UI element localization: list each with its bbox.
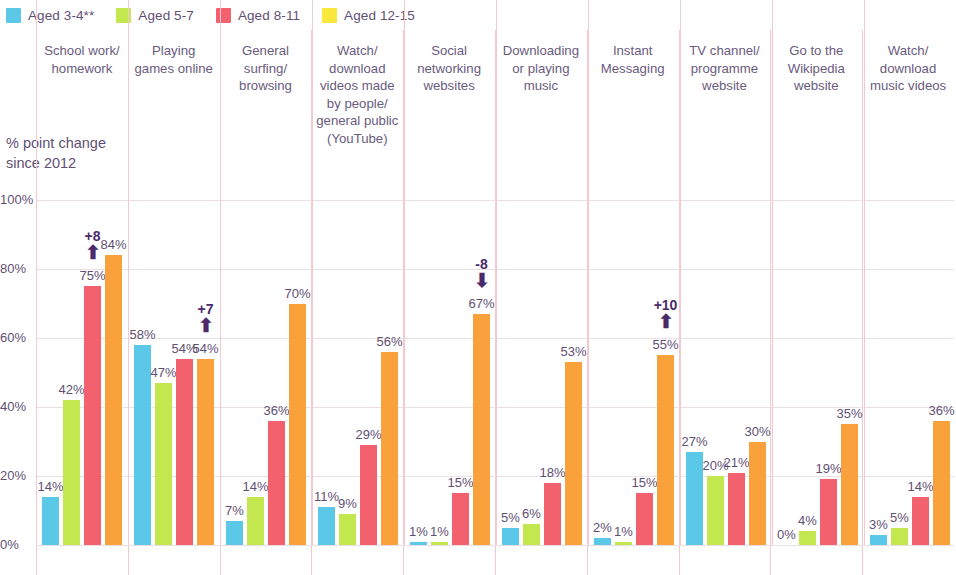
bar-column[interactable]: 29% (360, 200, 377, 545)
bar[interactable] (523, 524, 540, 545)
bar-column[interactable]: 5% (891, 200, 908, 545)
arrow-down-icon: ⬇ (474, 272, 490, 290)
column-separator (680, 0, 681, 545)
bar-column[interactable]: 6% (523, 200, 540, 545)
bar-column[interactable]: 35% (841, 200, 858, 545)
bar[interactable] (452, 493, 469, 545)
bar[interactable] (749, 442, 766, 546)
bar[interactable] (502, 528, 519, 545)
bar[interactable] (615, 542, 632, 545)
bar[interactable] (473, 314, 490, 545)
bar[interactable] (42, 497, 59, 545)
bar-column[interactable]: 2% (594, 200, 611, 545)
bar-column[interactable]: 20% (707, 200, 724, 545)
bar-column[interactable]: 0% (778, 200, 795, 545)
bar[interactable] (176, 359, 193, 545)
bar[interactable] (134, 345, 151, 545)
bar[interactable] (247, 497, 264, 545)
bar[interactable] (707, 476, 724, 545)
bar[interactable] (933, 421, 950, 545)
bar-column[interactable]: 4% (799, 200, 816, 545)
bar-column[interactable]: 67%-8⬇ (473, 200, 490, 545)
bar[interactable] (544, 483, 561, 545)
bar-value-label: 75% (79, 268, 105, 283)
bar-value-label: 47% (150, 365, 176, 380)
bar[interactable] (226, 521, 243, 545)
bar[interactable] (636, 493, 653, 545)
bar-column[interactable]: 84% (105, 200, 122, 545)
bar-value-label: 7% (225, 503, 244, 518)
bar-column[interactable]: 75%+8⬆ (84, 200, 101, 545)
bar-column[interactable]: 9% (339, 200, 356, 545)
bar-column[interactable]: 54% (176, 200, 193, 545)
bar[interactable] (197, 359, 214, 545)
bar-value-label: 35% (836, 406, 862, 421)
bar[interactable] (728, 473, 745, 545)
legend-item[interactable]: Aged 12-15 (322, 8, 415, 23)
bar[interactable] (360, 445, 377, 545)
bar[interactable] (912, 497, 929, 545)
bar[interactable] (318, 507, 335, 545)
bar[interactable] (841, 424, 858, 545)
bar-column[interactable]: 1% (410, 200, 427, 545)
bar-column[interactable]: 47% (155, 200, 172, 545)
bar-column[interactable]: 15% (452, 200, 469, 545)
bar-column[interactable]: 19% (820, 200, 837, 545)
bar-value-label: 5% (501, 510, 520, 525)
bar-column[interactable]: 5% (502, 200, 519, 545)
bar[interactable] (594, 538, 611, 545)
category-header-label: Social networking websites (407, 42, 491, 95)
bar[interactable] (63, 400, 80, 545)
bar-column[interactable]: 55%+10⬆ (657, 200, 674, 545)
bar[interactable] (410, 542, 427, 545)
bar-column[interactable]: 14% (42, 200, 59, 545)
bar-column[interactable]: 11% (318, 200, 335, 545)
bar-column[interactable]: 14% (247, 200, 264, 545)
legend-item[interactable]: Aged 8-11 (216, 8, 300, 23)
bar-value-label: 36% (263, 403, 289, 418)
bar[interactable] (686, 452, 703, 545)
bar-value-label: 36% (928, 403, 954, 418)
bar-column[interactable]: 30% (749, 200, 766, 545)
bar-column[interactable]: 14% (912, 200, 929, 545)
bar[interactable] (657, 355, 674, 545)
bar[interactable] (431, 542, 448, 545)
arrow-up-icon: ⬆ (85, 244, 101, 262)
bar-column[interactable]: 7% (226, 200, 243, 545)
bar-value-label: 58% (129, 327, 155, 342)
bar[interactable] (820, 479, 837, 545)
bar-column[interactable]: 58% (134, 200, 151, 545)
legend-item[interactable]: Aged 3-4** (6, 8, 94, 23)
bar-column[interactable]: 36% (268, 200, 285, 545)
bar[interactable] (891, 528, 908, 545)
bar-column[interactable]: 18% (544, 200, 561, 545)
bar-column[interactable]: 42% (63, 200, 80, 545)
bar[interactable] (565, 362, 582, 545)
bar-value-label: 14% (242, 479, 268, 494)
bar-column[interactable]: 3% (870, 200, 887, 545)
bar-value-label: 0% (777, 527, 796, 542)
bar[interactable] (268, 421, 285, 545)
bar-value-label: 15% (631, 475, 657, 490)
bar-column[interactable]: 36% (933, 200, 950, 545)
bar[interactable] (799, 531, 816, 545)
bar-column[interactable]: 56% (381, 200, 398, 545)
bar[interactable] (289, 304, 306, 546)
bar-groups: 14%42%75%+8⬆84%58%47%54%54%+7⬆7%14%36%70… (36, 200, 954, 545)
bar[interactable] (870, 535, 887, 545)
bar[interactable] (155, 383, 172, 545)
bar-column[interactable]: 15% (636, 200, 653, 545)
bar-column[interactable]: 1% (615, 200, 632, 545)
bar-column[interactable]: 70% (289, 200, 306, 545)
bar[interactable] (381, 352, 398, 545)
bar[interactable] (339, 514, 356, 545)
bar-column[interactable]: 1% (431, 200, 448, 545)
bar-column[interactable]: 54%+7⬆ (197, 200, 214, 545)
bar[interactable] (105, 255, 122, 545)
bar-column[interactable]: 27% (686, 200, 703, 545)
bar[interactable] (84, 286, 101, 545)
bar-column[interactable]: 53% (565, 200, 582, 545)
bar-column[interactable]: 21% (728, 200, 745, 545)
bar-value-label: 1% (614, 524, 633, 539)
legend-label: Aged 8-11 (238, 8, 300, 23)
